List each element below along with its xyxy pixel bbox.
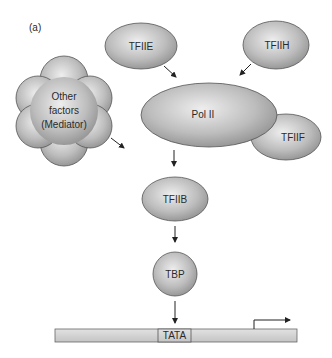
tfiie-node: TFIIE — [105, 23, 177, 69]
pol2-label: Pol II — [192, 109, 215, 120]
pol2-node: Pol II — [141, 83, 277, 147]
tfiif-label: TFIIF — [281, 132, 305, 143]
mediator-label-2: factors — [49, 105, 79, 116]
tata-label: TATA — [163, 330, 187, 341]
tfiih-label: TFIIH — [265, 40, 290, 51]
tbp-node: TBP — [153, 252, 197, 296]
transcription-initiation-diagram: (a) TFIIE TFIIH Other factors (Mediator)… — [0, 0, 332, 358]
tfiib-node: TFIIB — [142, 177, 208, 221]
tfiih-node: TFIIH — [243, 21, 309, 69]
tbp-label: TBP — [165, 269, 185, 280]
mediator-label-1: Other — [51, 91, 77, 102]
arrow-tfiie-to-pol2 — [164, 66, 176, 77]
arrow-mediator-to-pol2 — [111, 138, 124, 148]
tfiie-label: TFIIE — [129, 41, 154, 52]
panel-label: (a) — [29, 22, 41, 33]
tfiib-label: TFIIB — [163, 194, 188, 205]
dna-strand: TATA — [55, 329, 297, 342]
transcription-start-arrow — [254, 320, 290, 329]
mediator-node: Other factors (Mediator) — [16, 56, 112, 166]
arrow-tfiih-to-pol2 — [240, 64, 251, 75]
mediator-label-3: (Mediator) — [41, 119, 87, 130]
